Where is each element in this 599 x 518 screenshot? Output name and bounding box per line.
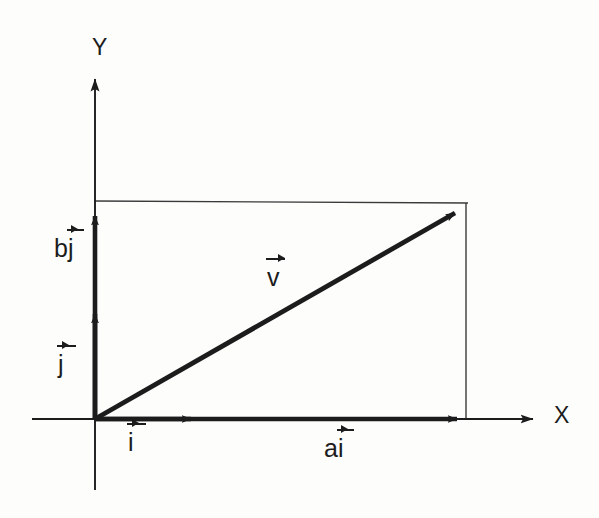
j-hat-glyph: j <box>68 236 75 261</box>
vector-arrow-head-icon <box>341 425 348 433</box>
y-axis-label: Y <box>92 36 107 59</box>
vector-label-unit-j: j <box>58 352 65 377</box>
component-j-letter: j <box>68 236 74 261</box>
top-projection-line <box>95 201 468 203</box>
unit-i-letter: i <box>128 430 134 455</box>
vector-label-a-times-i: a i <box>324 436 344 461</box>
vector-label-b-times-j: b j <box>54 236 74 261</box>
vector-label-resultant-v: v <box>267 265 281 290</box>
resultant-v-letter: v <box>267 265 280 290</box>
scalar-a: a <box>324 434 338 462</box>
vector-arrow-head-icon <box>62 341 69 349</box>
vector-arrow-head-icon <box>278 254 285 262</box>
vector-label-unit-i: i <box>128 430 135 455</box>
x-axis-label: X <box>554 404 569 427</box>
unit-j-letter: j <box>58 352 64 377</box>
coordinate-axes <box>32 79 533 490</box>
v-vector-glyph: v <box>267 265 281 290</box>
i-hat-glyph: i <box>128 430 135 455</box>
vector-arrow-head-icon <box>71 225 78 233</box>
vector-arrow-head-icon <box>132 419 139 427</box>
vector-resultant-v <box>95 213 455 419</box>
component-i-letter: i <box>338 436 344 461</box>
scalar-b: b <box>54 234 68 262</box>
j-hat-glyph: j <box>58 352 65 377</box>
vector-diagram-svg <box>0 0 599 518</box>
i-hat-glyph: i <box>338 436 345 461</box>
vector-arrows <box>95 213 457 419</box>
vector-diagram-canvas: Y X i j a i b j v <box>0 0 599 518</box>
